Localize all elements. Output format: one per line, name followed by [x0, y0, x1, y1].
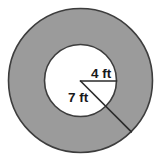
- annulus-diagram-svg: 4 ft 7 ft: [0, 0, 163, 161]
- outer-radius-label: 7 ft: [68, 90, 89, 105]
- inner-radius-label: 4 ft: [91, 66, 112, 81]
- geometry-figure: 4 ft 7 ft: [0, 0, 163, 161]
